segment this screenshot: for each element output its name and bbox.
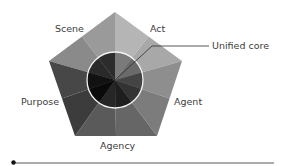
pentad-diagram <box>0 0 283 166</box>
label-purpose: Purpose <box>21 97 59 107</box>
label-unified-core: Unified core <box>212 41 269 51</box>
label-agent: Agent <box>174 97 202 107</box>
label-agency: Agency <box>100 141 135 151</box>
label-act: Act <box>150 24 165 34</box>
bottom-rule-dot <box>11 160 15 164</box>
label-scene: Scene <box>55 24 84 34</box>
